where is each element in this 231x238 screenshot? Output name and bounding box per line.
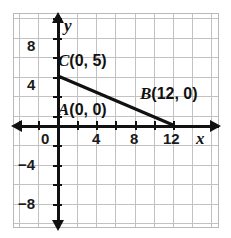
x-tick-label-12: 12 [163,131,180,146]
y-axis-tick [53,77,62,79]
x-axis-line [15,125,219,128]
y-axis-arrow-up-icon [52,12,64,23]
y-axis-tick [53,165,62,167]
point-a-name: A [58,100,69,119]
gridline-horizontal [14,184,218,185]
y-axis-line [57,15,60,228]
gridline-horizontal [14,57,218,58]
gridline-horizontal [14,204,218,205]
x-axis-tick [115,121,117,130]
y-axis-tick [53,204,62,206]
y-axis-tick [53,145,62,147]
plot-frame [13,13,219,228]
x-axis-tick [154,121,156,130]
point-label-b: B(12, 0) [140,85,198,102]
y-axis-label: y [64,17,72,34]
x-axis-arrow-right-icon [210,120,221,132]
point-a-coords: (0, 0) [69,101,106,118]
point-b-name: B [140,84,151,103]
gridline-vertical [192,14,193,227]
gridline-horizontal [14,38,218,39]
gridline-horizontal [14,165,218,166]
y-tick-label-8: 8 [27,38,35,53]
x-tick-label-4: 4 [92,131,100,146]
x-axis-tick [38,121,40,130]
point-c-name: C [58,51,69,70]
x-axis-tick [96,121,98,130]
x-axis-tick [77,121,79,130]
x-axis-label: x [196,130,205,147]
gridline-horizontal [14,223,218,224]
y-axis-tick [53,184,62,186]
point-label-c: C(0, 5) [58,52,107,69]
y-tick-label-0: 0 [41,131,49,146]
x-axis-tick [173,121,175,130]
point-b-coords: (12, 0) [151,85,197,102]
y-axis-tick [53,38,62,40]
x-tick-label-8: 8 [130,131,138,146]
gridline-horizontal [14,116,218,117]
gridline-horizontal [14,77,218,78]
gridline-horizontal [14,18,218,19]
x-axis-arrow-left-icon [11,120,22,132]
y-tick-label-minus-8: −8 [18,196,35,211]
x-axis-tick [135,121,137,130]
coordinate-grid-figure: 8 4 0 −4 −8 4 8 12 y x C(0, 5) A(0, 0) B… [0,0,231,238]
y-axis-arrow-down-icon [52,220,64,231]
point-c-coords: (0, 5) [69,52,106,69]
y-tick-label-minus-4: −4 [18,157,35,172]
y-axis-tick [53,96,62,98]
y-tick-label-4: 4 [27,77,35,92]
point-label-a: A(0, 0) [58,101,107,118]
